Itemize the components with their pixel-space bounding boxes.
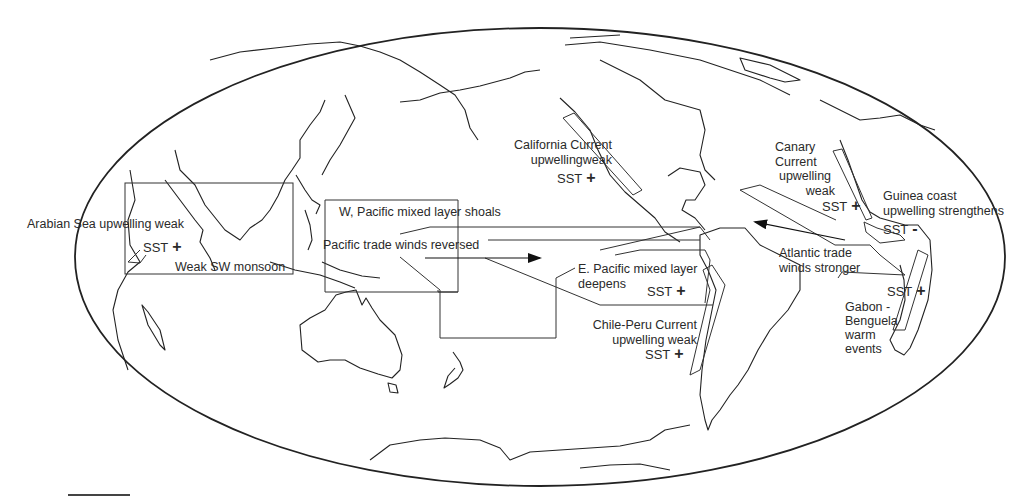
sst-text: SST	[883, 222, 908, 237]
label-atlantic-trade: Atlantic trade winds stronger	[779, 246, 860, 276]
label-sw-monsoon: Weak SW monsoon	[175, 260, 285, 275]
sst-plus-icon: +	[851, 197, 860, 214]
california-line1: California Current	[476, 138, 612, 153]
coast-philippines	[305, 210, 312, 250]
atlantic-line2: winds stronger	[779, 261, 860, 276]
coast-gulf-of-mexico	[668, 168, 705, 230]
gabon-line3: warm	[845, 328, 898, 342]
label-chile-peru: Chile-Peru Current upwelling weak	[580, 318, 697, 348]
sst-text: SST	[822, 199, 847, 214]
label-chile-sst: SST+	[645, 346, 684, 362]
label-pacific-trade: Pacific trade winds reversed	[323, 238, 479, 253]
coast-antarctica	[370, 425, 690, 470]
label-w-pacific: W, Pacific mixed layer shoals	[339, 205, 501, 220]
coast-kamchatka	[322, 95, 355, 175]
label-e-pacific-sst: SST+	[647, 283, 686, 299]
sst-plus-icon: +	[172, 238, 181, 255]
chile-line1: Chile-Peru Current	[580, 318, 697, 333]
label-gabon-sst: SST+	[887, 283, 926, 299]
label-california-sst: SST+	[557, 170, 596, 186]
atlantic-line1: Atlantic trade	[779, 246, 860, 261]
gabon-line4: events	[845, 342, 898, 356]
guinea-line1: Guinea coast	[883, 189, 1004, 204]
pacific-connector-right	[600, 227, 700, 250]
label-arabian-sea: Arabian Sea upwelling weak	[27, 217, 184, 232]
label-guinea: Guinea coast upwelling strengthens	[883, 189, 1004, 219]
coast-madagascar	[142, 305, 165, 350]
label-guinea-sst: SST-	[883, 221, 918, 237]
e-pacific-line1: E. Pacific mixed layer	[578, 262, 697, 277]
box-central-pacific	[400, 257, 575, 338]
coast-europe	[820, 100, 935, 130]
sst-text: SST	[647, 284, 672, 299]
sst-plus-icon: +	[674, 345, 683, 362]
sst-plus-icon: +	[916, 282, 925, 299]
canary-line3: upwelling	[775, 169, 835, 184]
coast-arabia	[113, 170, 140, 370]
coast-east-asia	[175, 100, 325, 240]
globe-outline	[75, 28, 1005, 486]
label-california: California Current upwellingweak	[476, 138, 612, 168]
label-arabian-sst: SST+	[143, 239, 182, 255]
coast-arctic-islands	[565, 35, 790, 95]
sst-plus-icon: +	[676, 282, 685, 299]
coast-siberia	[210, 42, 478, 140]
coast-tasmania	[388, 383, 398, 393]
sst-text: SST	[557, 171, 582, 186]
sst-text: SST	[143, 240, 168, 255]
california-line2: upwellingweak	[476, 153, 612, 168]
coast-japan	[296, 175, 320, 214]
coast-new-zealand	[444, 352, 463, 388]
label-canary: Canary Current upwelling weak	[775, 140, 835, 198]
gabon-line1: Gabon -	[845, 300, 898, 314]
sst-plus-icon: +	[586, 169, 595, 186]
canary-line2: Current	[775, 155, 835, 170]
canary-line4: weak	[775, 184, 835, 199]
label-canary-sst: SST+	[822, 198, 861, 214]
guinea-line2: upwelling strengthens	[883, 204, 1004, 219]
sst-text: SST	[887, 284, 912, 299]
coast-alaska	[400, 70, 540, 102]
coast-greenland	[740, 58, 800, 82]
sst-text: SST	[645, 347, 670, 362]
coast-australia	[300, 290, 402, 378]
gabon-line2: Benguela	[845, 314, 898, 328]
label-gabon-benguela: Gabon - Benguela warm events	[845, 300, 898, 356]
sst-minus-icon: -	[912, 220, 917, 237]
canary-line1: Canary	[775, 140, 835, 155]
